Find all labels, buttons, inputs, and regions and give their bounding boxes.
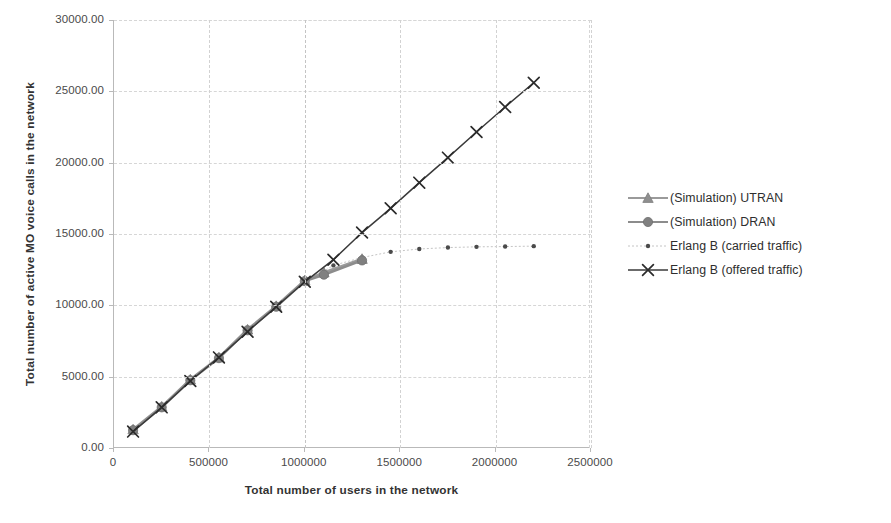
series-simulation-dran [128,256,366,435]
y-tick-mark-10000 [109,305,113,306]
y-tick-label-10000: 10000.00 [0,299,104,310]
plot-area [113,20,590,448]
data-point [474,245,478,249]
x-tick-mark-1500000 [399,448,400,452]
gridline-y-25000 [114,91,591,92]
x-tick-mark-2000000 [495,448,496,452]
gridline-y-5000 [114,377,591,378]
x-axis-title: Total number of users in the network [113,483,590,497]
data-point [331,263,335,267]
gridline-y-20000 [114,163,591,164]
legend-item-label: (Simulation) DRAN [670,215,776,229]
data-point [388,250,392,254]
series-line [133,260,362,430]
legend-marker-circle-icon [626,210,670,234]
data-point [471,127,482,138]
legend-marker-small-dot-icon [626,234,670,258]
legend-item-erlang-b-offered-traffic[interactable]: Erlang B (offered traffic) [626,258,884,282]
x-tick-mark-1000000 [304,448,305,452]
y-tick-mark-15000 [109,234,113,235]
gridline-y-10000 [114,305,591,306]
gridline-x-2500000 [591,20,592,448]
y-tick-label-15000: 15000.00 [0,228,104,239]
y-tick-mark-5000 [109,377,113,378]
y-tick-mark-30000 [109,20,113,21]
data-point [385,203,396,214]
y-tick-mark-20000 [109,163,113,164]
gridline-x-2000000 [496,20,497,448]
gridline-y-30000 [114,20,591,21]
data-point [357,227,368,238]
x-tick-mark-2500000 [590,448,591,452]
chart-figure: Total number of active MO voice calls in… [0,0,891,523]
legend-item-simulation-dran[interactable]: (Simulation) DRAN [626,210,884,234]
x-tick-label-2000000: 2000000 [472,456,517,468]
series-line [133,246,534,431]
y-tick-label-30000: 30000.00 [0,14,104,25]
legend-marker-x-icon [626,258,670,282]
data-point [500,102,511,113]
data-point [357,256,366,265]
data-point [414,177,425,188]
x-tick-mark-0 [113,448,114,452]
x-tick-label-1000000: 1000000 [281,456,326,468]
x-tick-mark-500000 [208,448,209,452]
x-tick-label-2500000: 2500000 [567,456,612,468]
data-point [528,77,539,88]
legend-item-label: Erlang B (offered traffic) [670,263,803,277]
data-point [417,247,421,251]
chart-legend: (Simulation) UTRAN(Simulation) DRANErlan… [626,186,884,282]
legend-item-label: (Simulation) UTRAN [670,191,783,205]
data-point [503,244,507,248]
y-tick-label-25000: 25000.00 [0,85,104,96]
series-line [133,259,362,429]
capacity-reference-line [305,20,306,448]
y-tick-mark-25000 [109,91,113,92]
data-point [319,270,328,279]
legend-item-simulation-utran[interactable]: (Simulation) UTRAN [626,186,884,210]
series-erlang-b-offered-traffic [128,77,539,437]
x-tick-label-500000: 500000 [189,456,228,468]
legend-item-erlang-b-carried-traffic[interactable]: Erlang B (carried traffic) [626,234,884,258]
gridline-x-1500000 [400,20,401,448]
data-point [443,152,454,163]
data-point [532,244,536,248]
y-tick-label-5000: 5000.00 [0,371,104,382]
data-point [446,245,450,249]
y-tick-label-20000: 20000.00 [0,157,104,168]
y-tick-label-0: 0.00 [0,442,104,453]
data-point [128,426,137,435]
gridline-y-15000 [114,234,591,235]
legend-marker-triangle-icon [626,186,670,210]
x-tick-label-1500000: 1500000 [376,456,421,468]
gridline-x-500000 [209,20,210,448]
x-tick-label-0: 0 [110,456,117,468]
data-point [243,326,252,335]
legend-item-label: Erlang B (carried traffic) [670,239,802,253]
